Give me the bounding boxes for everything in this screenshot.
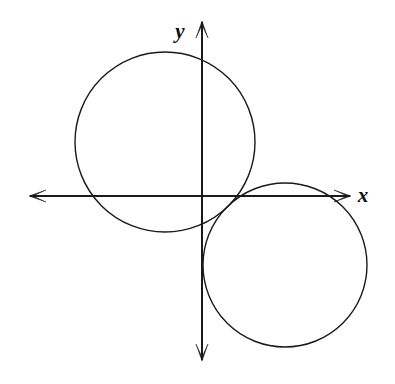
figure-canvas: x y [0, 0, 395, 384]
y-axis-label: y [172, 19, 185, 43]
coordinate-plane-diagram: x y [0, 0, 395, 384]
upper-left-circle [75, 52, 255, 232]
x-axis-label: x [357, 183, 369, 207]
